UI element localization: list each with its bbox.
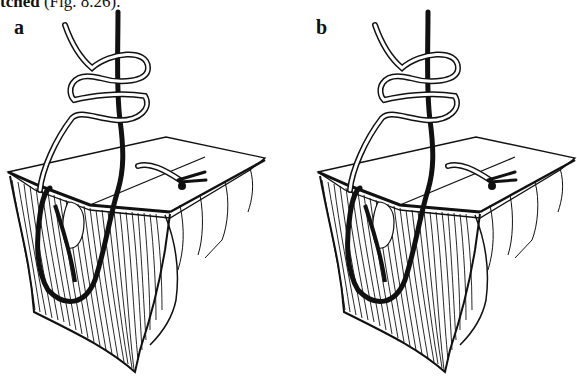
suture-illustration-a <box>0 0 288 380</box>
suture-illustration-b <box>290 0 577 380</box>
panel-label-b: b <box>316 16 327 39</box>
figure-panel-b: b <box>290 0 577 380</box>
figure-panel-a: a <box>0 0 288 380</box>
panel-label-a: a <box>14 16 24 39</box>
